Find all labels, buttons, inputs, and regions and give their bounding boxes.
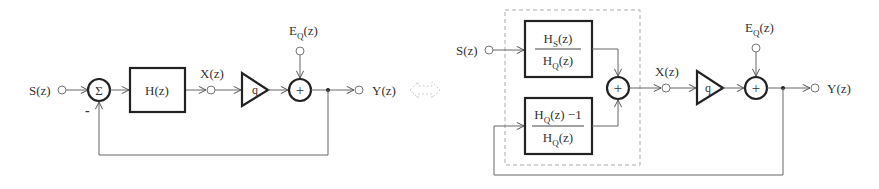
right-error-node-icon <box>752 44 760 52</box>
right-input-node-icon <box>485 46 493 54</box>
right-output-node-icon <box>811 84 819 92</box>
right-inner-adder-symbol: + <box>614 80 622 96</box>
block-diagram-canvas: S(z) Σ - H(z) X(z) q + EQ(z) Y(z) S(z) <box>0 0 879 189</box>
left-diagram: S(z) Σ - H(z) X(z) q + EQ(z) Y(z) <box>29 23 396 155</box>
right-wire-top-to-adder <box>592 49 618 76</box>
left-error-node-icon <box>296 47 304 55</box>
right-output-label: Y(z) <box>827 81 851 96</box>
right-x-node-icon <box>662 84 670 92</box>
right-adder-symbol: + <box>752 80 760 96</box>
right-error-label: EQ(z) <box>745 20 774 38</box>
left-output-node-icon <box>355 86 363 94</box>
left-input-label: S(z) <box>29 83 51 98</box>
left-adder-symbol: + <box>296 82 304 98</box>
left-input-node-icon <box>58 86 66 94</box>
left-output-label: Y(z) <box>372 83 396 98</box>
left-x-node-icon <box>207 86 215 94</box>
right-quantizer-label: q <box>705 81 711 95</box>
left-quantizer-label: q <box>252 83 258 97</box>
left-error-label: EQ(z) <box>289 23 318 41</box>
left-x-label: X(z) <box>200 66 224 81</box>
right-x-label: X(z) <box>655 64 679 79</box>
equivalence-arrow-icon <box>410 82 440 98</box>
right-input-label: S(z) <box>456 43 478 58</box>
right-wire-bottom-to-adder <box>592 100 618 126</box>
left-sigma-symbol: Σ <box>95 83 103 98</box>
left-filter-label: H(z) <box>145 83 169 98</box>
left-minus-sign: - <box>85 103 90 118</box>
right-diagram: S(z) HS(z) HQ(z) HQ(z) −1 HQ(z) + X(z) q… <box>456 10 851 175</box>
